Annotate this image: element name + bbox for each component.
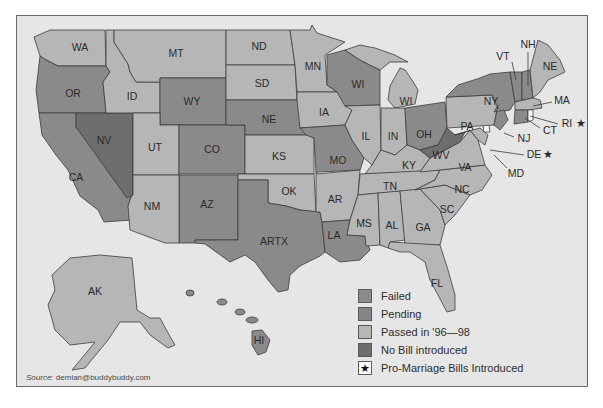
label-ny: NY: [484, 95, 499, 107]
label-az: AZ: [200, 198, 214, 210]
legend: Failed Pending Passed in '96—98 No Bill …: [358, 287, 523, 377]
label-ri: RI: [562, 117, 573, 129]
label-tn: TN: [383, 180, 397, 192]
label-nh: NH: [520, 38, 535, 50]
label-wa: WA: [72, 41, 89, 53]
label-al: AL: [386, 219, 399, 231]
star-ri: ★: [576, 117, 586, 129]
label-wy: WY: [184, 95, 201, 107]
label-wv: WV: [433, 149, 450, 161]
label-sc: SC: [440, 203, 455, 215]
label-mi: WI: [400, 95, 413, 107]
label-wi: WI: [352, 78, 365, 90]
star-de: ★: [543, 148, 553, 160]
label-ks: KS: [272, 150, 286, 162]
label-ky: KY: [402, 159, 416, 171]
label-ok: OK: [281, 185, 296, 197]
label-id: ID: [127, 90, 138, 102]
star-icon: ★: [358, 361, 372, 375]
label-nm: NM: [144, 200, 160, 212]
label-in: IN: [388, 130, 399, 142]
label-mo: MO: [330, 154, 347, 166]
label-mn: MN: [305, 60, 321, 72]
state-ct[interactable]: [514, 110, 528, 124]
label-ak: AK: [88, 285, 102, 297]
label-ca: CA: [69, 171, 84, 183]
label-ct: CT: [543, 124, 558, 136]
leader-de: [490, 150, 524, 155]
leader-nj: [504, 133, 514, 137]
label-la: LA: [328, 229, 341, 241]
label-vt: VT: [496, 50, 510, 62]
legend-label-failed: Failed: [381, 290, 411, 302]
label-ga: GA: [415, 221, 430, 233]
legend-item-no-bill: No Bill introduced: [358, 341, 523, 359]
label-or: OR: [65, 87, 81, 99]
swatch-failed: [358, 289, 372, 303]
label-co: CO: [204, 143, 220, 155]
legend-label-pending: Pending: [381, 308, 421, 320]
hi-island: [217, 299, 227, 305]
legend-item-pro-marriage: ★ Pro-Marriage Bills Introduced: [358, 359, 523, 377]
label-nv: NV: [97, 134, 112, 146]
label-tx: ARTX: [260, 235, 288, 247]
legend-label-pro-marriage: Pro-Marriage Bills Introduced: [381, 362, 523, 374]
label-ar: AR: [328, 193, 343, 205]
label-ia: IA: [319, 106, 329, 118]
label-mt: MT: [168, 47, 184, 59]
legend-item-failed: Failed: [358, 287, 523, 305]
label-nd: ND: [251, 40, 267, 52]
legend-item-pending: Pending: [358, 305, 523, 323]
label-md: MD: [508, 167, 525, 179]
source-note: Source: demian@buddybuddy.com: [26, 373, 151, 382]
swatch-passed: [358, 325, 372, 339]
label-il: IL: [362, 130, 371, 142]
hi-island: [186, 290, 194, 296]
label-ms: MS: [356, 217, 372, 229]
legend-label-no-bill: No Bill introduced: [381, 344, 467, 356]
label-hi: HI: [254, 334, 265, 346]
legend-item-passed: Passed in '96—98: [358, 323, 523, 341]
label-sd: SD: [255, 77, 270, 89]
label-me: NE: [543, 60, 558, 72]
label-ma: MA: [554, 94, 570, 106]
label-oh: OH: [416, 128, 432, 140]
label-pa: PA: [460, 120, 473, 132]
source-prefix: Source:: [26, 373, 54, 382]
swatch-pending: [358, 307, 372, 321]
state-ak[interactable]: [48, 255, 175, 370]
label-nc: NC: [454, 183, 470, 195]
label-ne: NE: [262, 113, 277, 125]
label-nj: NJ: [518, 132, 531, 144]
label-ut: UT: [148, 141, 163, 153]
swatch-no-bill: [358, 343, 372, 357]
leader-md: [494, 155, 507, 168]
hi-island: [246, 317, 258, 323]
legend-label-passed: Passed in '96—98: [381, 326, 470, 338]
source-text: demian@buddybuddy.com: [56, 373, 151, 382]
label-va: VA: [458, 161, 471, 173]
hi-island: [235, 309, 245, 315]
label-de: DE: [527, 148, 542, 160]
